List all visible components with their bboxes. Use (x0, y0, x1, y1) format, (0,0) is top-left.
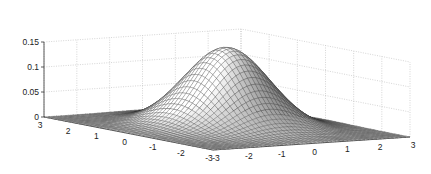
x-tick-label: 2 (66, 126, 71, 136)
y-tick-label: 0 (312, 147, 317, 157)
x-tick-label: -1 (149, 142, 157, 152)
x-tick-label: 0 (122, 137, 127, 147)
surface-plot: 00.050.10.15-3-2-10123-3-2-10123 (0, 0, 431, 174)
x-tick-label: -2 (177, 148, 185, 158)
z-tick-label: 0.15 (22, 37, 39, 47)
z-tick-label: 0.05 (22, 87, 39, 97)
surface-mesh (44, 47, 410, 150)
y-tick-label: -2 (245, 151, 253, 161)
x-tick-label: 1 (94, 131, 99, 141)
y-tick-label: 3 (411, 140, 416, 150)
y-tick-label: 1 (345, 144, 350, 154)
x-tick-label: 3 (38, 120, 43, 130)
y-tick-label: -3 (212, 153, 220, 163)
z-tick-label: 0.1 (27, 62, 39, 72)
y-tick-label: -1 (278, 149, 286, 159)
y-tick-label: 2 (378, 142, 383, 152)
